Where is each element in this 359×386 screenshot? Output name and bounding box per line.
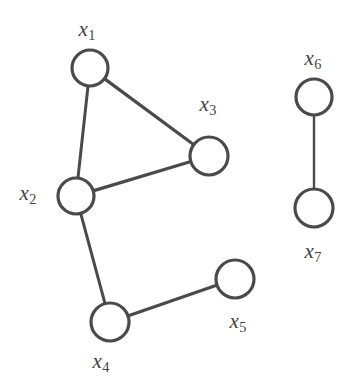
graph-node-x2: [58, 178, 94, 214]
graph-edge-x1-x2: [78, 85, 88, 179]
graph-node-x6: [296, 79, 332, 115]
graph-edge-x4-x5: [127, 285, 218, 316]
label-base-x6: x: [305, 46, 314, 70]
label-subscript-x5: 5: [239, 319, 246, 335]
graph-node-label-x7: x7: [305, 241, 322, 264]
graph-node-x7: [295, 189, 333, 227]
graph-node-x3: [190, 137, 228, 175]
label-base-x1: x: [79, 17, 88, 41]
graph-node-x4: [91, 303, 129, 341]
label-base-x4: x: [93, 349, 102, 373]
graph-node-label-x2: x2: [20, 183, 37, 206]
label-base-x5: x: [230, 309, 239, 333]
edge-layer: [78, 78, 314, 316]
label-subscript-x2: 2: [29, 191, 36, 207]
graph-node-label-x5: x5: [230, 311, 247, 334]
node-layer: [58, 50, 333, 341]
label-subscript-x4: 4: [102, 359, 109, 375]
graph-node-x5: [216, 260, 254, 298]
label-subscript-x7: 7: [314, 249, 321, 265]
label-subscript-x3: 3: [209, 102, 216, 118]
graph-edge-x2-x3: [92, 161, 191, 191]
graph-node-x1: [72, 50, 108, 86]
label-base-x2: x: [20, 181, 29, 205]
graph-node-label-x3: x3: [200, 94, 217, 117]
label-subscript-x1: 1: [88, 27, 95, 43]
graph-edge-x2-x4: [80, 212, 105, 304]
graph-node-label-x1: x1: [79, 19, 96, 42]
label-subscript-x6: 6: [314, 56, 321, 72]
label-base-x3: x: [200, 92, 209, 116]
label-base-x7: x: [305, 239, 314, 263]
graph-node-label-x4: x4: [93, 351, 110, 374]
graph-edge-x1-x3: [104, 78, 195, 145]
graph-figure: x1x2x3x4x5x6x7: [0, 0, 359, 386]
graph-node-label-x6: x6: [305, 48, 322, 71]
